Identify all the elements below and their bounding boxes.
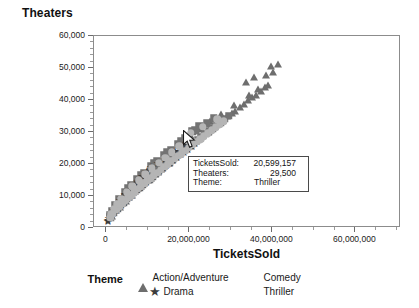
x-tick-label: 20,000,000: [167, 234, 210, 244]
data-points-layer[interactable]: ★★★★★★★★★★★★★★★★★★★★★★★★★★★★★★★★★★★★★★★★…: [93, 35, 400, 227]
star-icon: ★: [149, 287, 160, 296]
data-point-triangle[interactable]: [254, 86, 262, 93]
data-point-circle[interactable]: [142, 170, 150, 178]
x-axis-title: TicketsSold: [93, 247, 400, 261]
x-tick-minor: [230, 227, 231, 230]
y-tick-label: 30,000: [59, 126, 85, 136]
x-tick: [188, 227, 189, 232]
data-point-circle[interactable]: [168, 148, 176, 156]
legend-item-drama[interactable]: ★ Drama: [149, 286, 194, 297]
legend-label: Action/Adventure: [153, 272, 229, 283]
mouse-cursor: [183, 130, 196, 153]
x-tick-minor: [313, 227, 314, 230]
data-point-circle[interactable]: [199, 123, 207, 131]
data-point-circle[interactable]: [176, 143, 184, 151]
legend-title: Theme: [88, 273, 123, 285]
x-tick: [105, 227, 106, 232]
y-axis: 010,00020,00030,00040,00050,00060,000: [0, 35, 93, 227]
x-tick-minor: [209, 227, 210, 230]
x-tick-minor: [168, 227, 169, 230]
tooltip-row: Theme:Thriller: [193, 178, 304, 188]
data-point-triangle[interactable]: [250, 74, 258, 81]
data-tooltip: TicketsSold:20,599,157Theaters:29,500The…: [188, 156, 309, 192]
data-point-circle[interactable]: [148, 164, 156, 172]
x-tick-label: 40,000,000: [250, 234, 293, 244]
x-tick-minor: [375, 227, 376, 230]
data-point-triangle[interactable]: [242, 79, 250, 86]
legend-item-action-adventure[interactable]: Action/Adventure: [138, 272, 229, 283]
data-point-circle[interactable]: [220, 118, 228, 126]
x-tick-label: 60,000,000: [333, 234, 376, 244]
data-point-circle[interactable]: [161, 154, 169, 162]
legend-label: Drama: [164, 286, 194, 297]
data-point-triangle[interactable]: [230, 101, 238, 108]
x-tick-minor: [334, 227, 335, 230]
x-tick-minor: [251, 227, 252, 230]
y-tick-label: 10,000: [59, 190, 85, 200]
y-tick-label: 0: [80, 222, 85, 232]
x-axis: TicketsSold 020,000,00040,000,00060,000,…: [93, 227, 400, 267]
legend: Theme Action/Adventure Comedy ★ Drama Th…: [0, 272, 419, 302]
data-point-circle[interactable]: [213, 115, 221, 123]
chart-root: Theaters 010,00020,00030,00040,00050,000…: [0, 0, 419, 308]
y-tick-label: 60,000: [59, 30, 85, 40]
data-point-triangle[interactable]: [264, 81, 272, 88]
legend-label: Thriller: [264, 286, 295, 297]
x-tick-minor: [126, 227, 127, 230]
y-tick-label: 40,000: [59, 94, 85, 104]
data-point-circle[interactable]: [108, 210, 116, 218]
data-point-triangle[interactable]: [245, 92, 253, 99]
legend-label: Comedy: [264, 272, 301, 283]
data-point-triangle[interactable]: [274, 61, 282, 68]
y-tick-label: 50,000: [59, 62, 85, 72]
page-title: Theaters: [22, 6, 73, 20]
tooltip-value: Thriller: [246, 178, 304, 188]
x-tick: [354, 227, 355, 232]
y-tick-label: 20,000: [59, 158, 85, 168]
x-tick-minor: [147, 227, 148, 230]
x-tick-label: 0: [103, 234, 108, 244]
data-point-circle[interactable]: [135, 177, 143, 185]
triangle-icon: [138, 272, 149, 283]
x-tick-minor: [396, 227, 397, 230]
x-tick: [271, 227, 272, 232]
x-tick-minor: [292, 227, 293, 230]
legend-item-comedy[interactable]: Comedy: [249, 272, 301, 283]
data-point-circle[interactable]: [155, 159, 163, 167]
tooltip-label: Theme:: [193, 178, 246, 188]
legend-item-thriller[interactable]: Thriller: [249, 286, 295, 297]
